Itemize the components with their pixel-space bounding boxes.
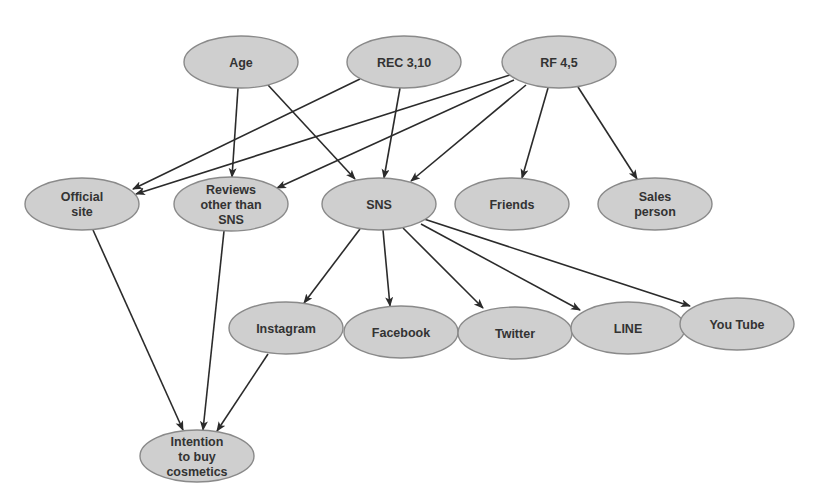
node-label: to buy [178,450,216,464]
node-label: RF 4,5 [540,56,578,70]
node-rec: REC 3,10 [347,36,461,88]
node-label: Reviews [206,183,256,197]
node-intention: Intentionto buycosmetics [140,430,254,482]
node-sales: Salesperson [598,178,712,230]
node-label: Age [229,56,253,70]
node-facebook: Facebook [344,306,458,358]
edge-rf-to-official [136,75,510,194]
node-label: site [71,205,93,219]
edge-sns-to-twitter [403,228,483,308]
node-ellipse [25,178,139,230]
node-age: Age [184,36,298,88]
edge-rf-to-sales [578,87,637,179]
node-youtube: You Tube [680,298,794,350]
node-label: Instagram [256,322,316,336]
node-label: You Tube [709,318,764,332]
edge-instagram-to-intention [217,354,268,431]
edge-sns-to-facebook [383,230,390,306]
edge-reviews-to-intention [203,231,224,430]
node-instagram: Instagram [229,302,343,354]
node-official: Officialsite [25,178,139,230]
node-ellipse [598,178,712,230]
node-twitter: Twitter [458,307,572,359]
edge-sns-to-line [421,224,580,310]
node-label: REC 3,10 [377,56,431,70]
node-line: LINE [571,302,685,354]
node-rf: RF 4,5 [502,36,616,88]
edge-official-to-intention [93,230,183,430]
node-label: person [634,205,676,219]
node-label: SNS [218,213,244,227]
node-label: Sales [639,190,672,204]
node-reviews: Reviewsother thanSNS [174,177,288,231]
node-label: Friends [489,198,534,212]
edge-sns-to-youtube [424,219,690,306]
node-label: cosmetics [166,465,227,479]
node-label: SNS [366,198,392,212]
node-friends: Friends [455,178,569,230]
node-label: Intention [171,435,224,449]
edges-layer [93,75,690,431]
nodes-layer: AgeREC 3,10RF 4,5OfficialsiteReviewsothe… [25,36,794,482]
node-label: LINE [614,322,642,336]
node-sns: SNS [322,178,436,230]
node-label: other than [200,198,261,212]
diagram-canvas: AgeREC 3,10RF 4,5OfficialsiteReviewsothe… [0,0,815,501]
node-label: Facebook [372,326,430,340]
node-label: Official [61,190,103,204]
edge-sns-to-instagram [304,229,360,303]
node-label: Twitter [495,327,535,341]
edge-rf-to-friends [522,88,548,178]
edge-rf-to-sns [411,85,526,181]
edge-age-to-sns [268,85,355,179]
